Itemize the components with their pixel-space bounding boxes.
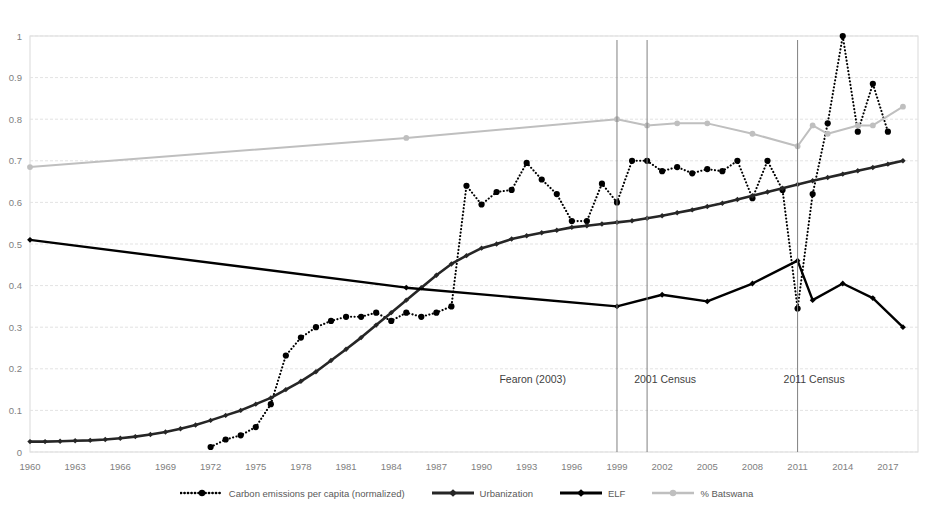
annotation: Fearon (2003): [499, 40, 617, 452]
x-axis-tick-label: 1975: [245, 461, 266, 472]
x-axis-tick-label: 2002: [652, 461, 673, 472]
legend-item[interactable]: Carbon emissions per capita (normalized): [180, 487, 405, 499]
data-point: [268, 401, 274, 407]
legend-item[interactable]: Urbanization: [431, 487, 533, 499]
data-point: [674, 210, 679, 215]
y-axis-tick-label: 0.1: [9, 405, 22, 416]
data-point: [765, 189, 770, 194]
x-axis-tick-label: 1984: [381, 461, 402, 472]
data-point: [810, 191, 816, 197]
data-point: [705, 204, 710, 209]
data-point: [478, 201, 484, 207]
data-point: [569, 225, 574, 230]
data-point: [253, 424, 259, 430]
x-axis-tick-label: 1981: [335, 461, 356, 472]
data-point: [870, 165, 875, 170]
data-point: [674, 120, 680, 126]
x-axis-tick-label: 1990: [471, 461, 492, 472]
data-point: [750, 131, 756, 137]
annotation-label: 2011 Census: [784, 373, 845, 385]
data-point: [599, 221, 604, 226]
y-axis-tick-label: 0.7: [9, 155, 22, 166]
data-point: [208, 444, 214, 450]
annotation: 2001 Census: [634, 40, 696, 452]
data-point: [659, 213, 664, 218]
legend-marker: [449, 489, 457, 497]
data-point: [810, 123, 816, 129]
legend-item[interactable]: % Batswana: [651, 487, 753, 499]
legend-marker: [670, 490, 676, 496]
x-axis-tick-label: 1960: [19, 461, 40, 472]
x-axis-tick-label: 1978: [290, 461, 311, 472]
data-point: [674, 164, 680, 170]
legend-label: ELF: [608, 488, 625, 499]
data-point: [840, 33, 846, 39]
data-point: [133, 434, 138, 439]
x-axis-tick-label: 1999: [606, 461, 627, 472]
data-point: [72, 438, 77, 443]
data-point: [855, 168, 860, 173]
x-axis-tick-label: 1987: [426, 461, 447, 472]
data-point: [704, 120, 710, 126]
legend-label: % Batswana: [700, 488, 753, 499]
data-point: [554, 191, 560, 197]
series-carbon-emissions-per-capita-normalized: [208, 33, 891, 450]
y-axis-tick-label: 0.9: [9, 72, 22, 83]
data-point: [313, 324, 319, 330]
y-axis-tick-label: 1: [17, 31, 22, 42]
data-point: [223, 436, 229, 442]
data-point: [825, 131, 831, 137]
data-point: [855, 123, 861, 129]
data-point: [358, 314, 364, 320]
data-point: [825, 175, 830, 180]
data-point: [554, 228, 559, 233]
legend-marker: [199, 490, 205, 496]
data-point: [539, 230, 544, 235]
x-axis-tick-label: 1993: [516, 461, 537, 472]
data-point: [704, 166, 710, 172]
data-point: [418, 314, 424, 320]
x-axis-tick-label: 2011: [787, 461, 807, 472]
y-axis-tick-label: 0.2: [9, 363, 22, 374]
data-point: [103, 437, 108, 442]
data-point: [870, 123, 876, 129]
data-point: [870, 81, 876, 87]
data-point: [629, 158, 635, 164]
x-axis-tick-label: 2005: [697, 461, 718, 472]
legend-marker: [577, 489, 585, 497]
data-point: [27, 237, 33, 243]
data-point: [298, 335, 304, 341]
data-point: [584, 223, 589, 228]
data-point: [328, 318, 334, 324]
x-axis-tick-label: 1966: [110, 461, 131, 472]
chart-legend: Carbon emissions per capita (normalized)…: [0, 487, 933, 499]
data-point: [659, 292, 665, 298]
series-elf: [27, 237, 906, 330]
data-point: [690, 207, 695, 212]
data-point: [689, 170, 695, 176]
data-point: [539, 176, 545, 182]
data-point: [885, 161, 890, 166]
data-point: [599, 181, 605, 187]
chart-plot-area: 00.10.20.30.40.50.60.70.80.9119601963196…: [0, 0, 933, 531]
data-point: [900, 158, 905, 163]
plot-border: [30, 36, 918, 452]
data-point: [283, 352, 289, 358]
data-point: [825, 120, 831, 126]
legend-item[interactable]: ELF: [559, 487, 625, 499]
data-point: [569, 218, 575, 224]
series-line: [30, 161, 903, 442]
y-axis-tick-label: 0.8: [9, 114, 22, 125]
annotation-label: 2001 Census: [634, 373, 696, 385]
data-point: [720, 201, 725, 206]
data-point: [629, 218, 634, 223]
data-point: [659, 168, 665, 174]
data-point: [118, 436, 123, 441]
data-point: [27, 439, 32, 444]
data-point: [148, 432, 153, 437]
data-point: [403, 310, 409, 316]
data-point: [238, 432, 244, 438]
series-line: [30, 107, 903, 167]
series-batswana: [27, 104, 906, 170]
legend-label: Carbon emissions per capita (normalized): [229, 488, 405, 499]
